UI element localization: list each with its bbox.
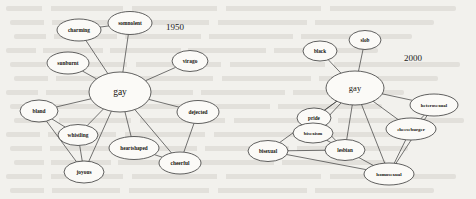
graph-edge-charming-somnolent: [100, 26, 109, 27]
node-label: homosexual: [376, 172, 402, 177]
node-label: lesbian: [337, 147, 353, 153]
graph-node-slob[interactable]: slob: [349, 31, 381, 50]
graph-edge-gay-slob: [359, 49, 364, 71]
graph-edge-lesbian-homosexual: [359, 158, 373, 166]
graph-edge-gay-whistling: [87, 109, 103, 126]
node-label: bland: [32, 108, 45, 114]
node-label: cheeseburger: [397, 127, 426, 132]
graph-node-bland[interactable]: bland: [20, 100, 58, 122]
graph-node-dejected[interactable]: dejected: [177, 101, 219, 124]
node-label: heterosexual: [421, 103, 448, 108]
node-label: whistling: [68, 132, 89, 138]
graph-edge-dejected-cheerful: [184, 123, 194, 152]
word-neighbor-graphs: gaycharmingsomnolentsunburntviragoblandw…: [0, 0, 476, 199]
graph-node-heartshaped[interactable]: heartshaped: [109, 137, 159, 160]
graph-edge-gay-dejected: [149, 99, 179, 107]
node-label: pride: [308, 115, 321, 121]
figure-canvas: gaycharmingsomnolentsunburntviragoblandw…: [0, 0, 476, 199]
node-label: dejected: [188, 109, 207, 115]
graph-node-homosexual[interactable]: homosexual: [364, 163, 414, 185]
graph-edge-gay-bland: [57, 99, 91, 107]
graph-node-somnolent[interactable]: somnolent: [108, 12, 152, 35]
graph-edge-bland-whistling: [52, 119, 65, 127]
graph-node-whistling[interactable]: whistling: [58, 125, 98, 146]
graph-edge-gay-lesbian: [347, 105, 353, 140]
graph-edge-gay-sunburnt: [82, 71, 96, 79]
node-label: charming: [68, 27, 90, 33]
node-label: gay: [113, 87, 127, 97]
node-label: black: [314, 48, 326, 54]
panel-1950: gaycharmingsomnolentsunburntviragoblandw…: [20, 12, 219, 184]
node-label: heartshaped: [120, 145, 147, 151]
graph-node-cheeseburger[interactable]: cheeseburger: [386, 118, 436, 140]
node-label: virago: [183, 58, 198, 64]
graph-edge-gay-somnolent: [123, 34, 128, 72]
node-label: somnolent: [118, 20, 142, 26]
graph-edge-heterosexual-cheeseburger: [421, 115, 425, 119]
graph-node-cheerful[interactable]: cheerful: [159, 152, 201, 174]
graph-edge-whistling-joyous: [80, 145, 83, 161]
node-label: sunburnt: [57, 60, 78, 66]
node-label: bisexism: [304, 131, 323, 136]
graph-node-bisexual[interactable]: bisexual: [248, 141, 288, 162]
graph-edge-gay-heterosexual: [382, 94, 412, 100]
graph-node-heterosexual[interactable]: heterosexual: [410, 94, 458, 116]
node-label: joyous: [76, 169, 92, 175]
graph-edge-gay-heartshaped: [125, 112, 131, 137]
node-label: bisexual: [259, 148, 278, 154]
graph-node-gay[interactable]: gay: [326, 71, 384, 105]
graph-edge-gay-cheeseburger: [373, 101, 398, 119]
graph-node-lesbian[interactable]: lesbian: [325, 140, 365, 161]
graph-edge-bisexism-lesbian: [327, 140, 331, 142]
graph-edge-gay-virago: [146, 67, 176, 80]
graph-node-gay[interactable]: gay: [89, 72, 151, 112]
graph-node-virago[interactable]: virago: [172, 51, 208, 72]
graph-edge-gay-charming: [86, 40, 108, 73]
graph-node-sunburnt[interactable]: sunburnt: [47, 52, 89, 74]
graph-edge-gay-homosexual: [362, 105, 385, 164]
graph-edge-gay-black: [328, 60, 341, 73]
graph-node-black[interactable]: black: [303, 41, 337, 61]
year-label: 1950: [166, 22, 185, 32]
graph-node-joyous[interactable]: joyous: [64, 161, 104, 183]
graph-node-bisexism[interactable]: bisexism: [293, 123, 333, 143]
node-label: slob: [361, 37, 370, 43]
graph-edge-heartshaped-cheerful: [154, 155, 162, 158]
graph-node-charming[interactable]: charming: [57, 19, 101, 41]
panel-2000: gayblackslobpridebisexismlesbianbisexual…: [248, 31, 458, 186]
node-label: gay: [349, 83, 362, 93]
year-label: 2000: [404, 53, 423, 63]
node-label: cheerful: [171, 160, 190, 166]
